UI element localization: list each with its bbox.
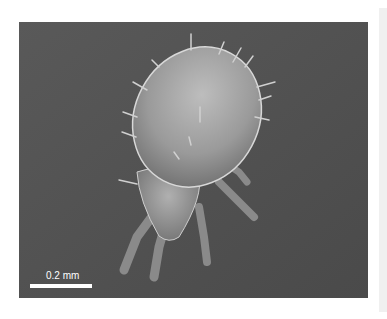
mite-illustration [19,22,368,298]
scale-bar-label: 0.2 mm [46,270,79,281]
scale-bar [30,284,92,288]
scrollbar-track[interactable] [379,8,387,312]
sem-micrograph: 0.2 mm [19,22,368,298]
